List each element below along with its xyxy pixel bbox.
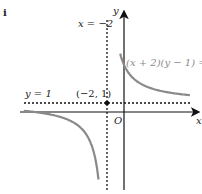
x-axis-label: x <box>196 115 202 126</box>
curve-equation-label: (x + 2)(y − 1) = 9 <box>126 57 202 68</box>
hyperbola-diagram: i x = −2 y = 1 (−2, 1) (x + 2)(y − 1) = … <box>0 0 202 194</box>
origin-label: O <box>114 115 122 126</box>
part-label: i <box>3 7 7 18</box>
horizontal-asymptote-label: y = 1 <box>24 88 52 99</box>
vertical-asymptote-label: x = −2 <box>78 18 113 29</box>
asymptote-intersection-point <box>105 101 110 106</box>
point-label: (−2, 1) <box>76 88 111 99</box>
curve-branch-left <box>24 111 99 180</box>
y-axis-label: y <box>112 5 119 16</box>
